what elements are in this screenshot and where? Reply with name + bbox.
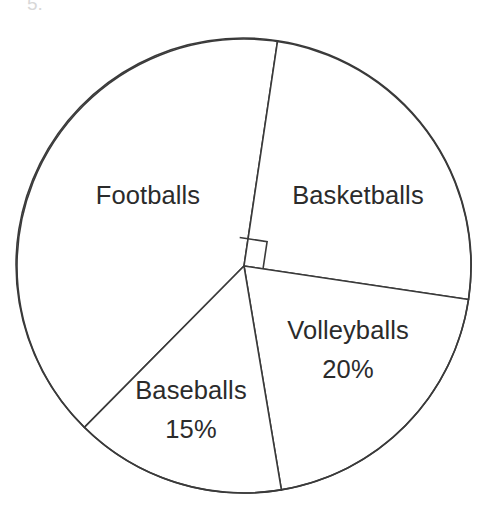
slice-label-volleyballs-name: Volleyballs [268,315,428,345]
slice-label-footballs: Footballs [72,180,224,210]
slice-label-volleyballs-percent: 20% [268,354,428,384]
slice-label-baseballs: Baseballs 15% [112,375,270,444]
slice-label-footballs-name: Footballs [72,180,224,210]
pie-chart-figure: 5. Footballs Basketballs Volleyballs 20%… [0,0,490,519]
slice-label-baseballs-name: Baseballs [112,375,270,405]
slice-label-volleyballs: Volleyballs 20% [268,315,428,384]
slice-label-basketballs: Basketballs [273,180,443,210]
slice-label-basketballs-name: Basketballs [273,180,443,210]
pie-slice-basketballs[interactable] [244,41,471,300]
slice-label-baseballs-percent: 15% [112,414,270,444]
